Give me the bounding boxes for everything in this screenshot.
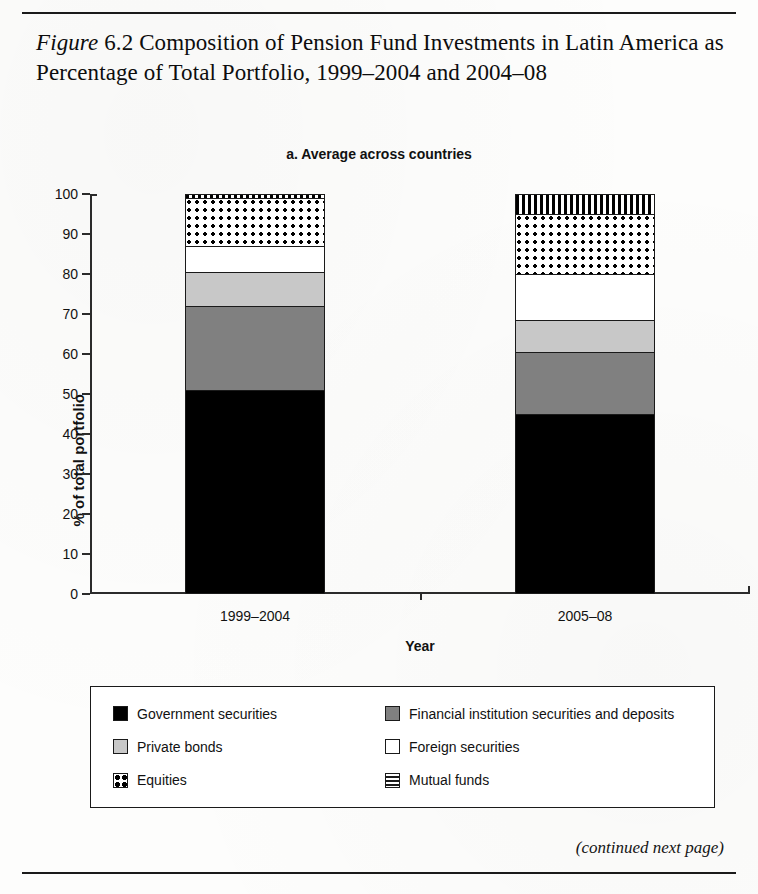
legend-swatch-icon	[385, 739, 400, 754]
y-tick-label: 50	[62, 386, 78, 402]
y-tick-label: 30	[62, 466, 78, 482]
bar-segment[interactable]	[185, 306, 325, 390]
bar-segment[interactable]	[515, 414, 655, 594]
y-tick	[82, 273, 90, 275]
top-rule	[22, 12, 736, 14]
y-tick	[82, 353, 90, 355]
x-tick	[420, 592, 422, 600]
figure-number: 6.2	[104, 30, 133, 55]
y-tick	[82, 393, 90, 395]
continued-note: (continued next page)	[576, 838, 724, 858]
bar-segment[interactable]	[515, 194, 655, 214]
x-axis-cap	[90, 586, 92, 594]
x-tick-label: 2005–08	[558, 608, 613, 624]
y-tick	[82, 313, 90, 315]
bar-segment[interactable]	[185, 272, 325, 306]
bar-segment[interactable]	[185, 390, 325, 594]
y-tick-label: 70	[62, 306, 78, 322]
stacked-bar[interactable]	[185, 194, 325, 594]
bar-segment[interactable]	[185, 246, 325, 272]
plot-area: % of total portfolio 0102030405060708090…	[90, 194, 750, 594]
legend-item[interactable]: Foreign securities	[385, 730, 714, 763]
legend-label: Private bonds	[137, 739, 223, 755]
y-tick	[82, 553, 90, 555]
y-axis-line	[90, 194, 92, 594]
y-tick-label: 60	[62, 346, 78, 362]
y-tick	[82, 433, 90, 435]
bottom-rule	[22, 872, 736, 874]
legend-swatch-icon	[385, 706, 400, 721]
x-axis-cap	[748, 586, 750, 594]
bar-segment[interactable]	[185, 194, 325, 198]
legend-swatch-icon	[385, 773, 400, 788]
y-tick-label: 80	[62, 266, 78, 282]
bar-segment[interactable]	[515, 320, 655, 352]
y-tick-label: 100	[55, 186, 78, 202]
stacked-bar[interactable]	[515, 194, 655, 594]
chart-legend: Government securitiesFinancial instituti…	[90, 686, 715, 808]
chart-subtitle: a. Average across countries	[24, 146, 734, 162]
legend-item[interactable]: Private bonds	[113, 730, 385, 763]
y-tick-label: 10	[62, 546, 78, 562]
chart-container: a. Average across countries % of total p…	[24, 140, 734, 840]
legend-swatch-icon	[113, 739, 128, 754]
bar-segment[interactable]	[515, 352, 655, 414]
x-axis-title: Year	[90, 638, 750, 654]
y-tick-label: 90	[62, 226, 78, 242]
legend-swatch-icon	[113, 773, 128, 788]
x-tick-label: 1999–2004	[220, 608, 290, 624]
y-tick	[82, 193, 90, 195]
y-tick	[82, 513, 90, 515]
legend-item[interactable]: Equities	[113, 764, 385, 797]
y-tick-label: 40	[62, 426, 78, 442]
legend-label: Financial institution securities and dep…	[409, 706, 674, 722]
y-tick	[82, 233, 90, 235]
bar-segment[interactable]	[515, 274, 655, 320]
legend-label: Mutual funds	[409, 772, 489, 788]
legend-item[interactable]: Mutual funds	[385, 764, 714, 797]
legend-item[interactable]: Government securities	[113, 697, 385, 730]
legend-item[interactable]: Financial institution securities and dep…	[385, 697, 714, 730]
bar-segment[interactable]	[515, 214, 655, 274]
y-tick-label: 0	[70, 586, 78, 602]
figure-label: Figure	[36, 30, 98, 55]
figure-title-text: Composition of Pension Fund Investments …	[36, 30, 724, 85]
y-tick-label: 20	[62, 506, 78, 522]
bar-segment[interactable]	[185, 198, 325, 246]
y-tick	[82, 593, 90, 595]
legend-label: Equities	[137, 772, 187, 788]
y-tick	[82, 473, 90, 475]
figure-title: Figure 6.2 Composition of Pension Fund I…	[36, 28, 726, 88]
y-axis-cap-top	[90, 194, 97, 196]
legend-label: Foreign securities	[409, 739, 520, 755]
legend-swatch-icon	[113, 706, 128, 721]
legend-label: Government securities	[137, 706, 277, 722]
